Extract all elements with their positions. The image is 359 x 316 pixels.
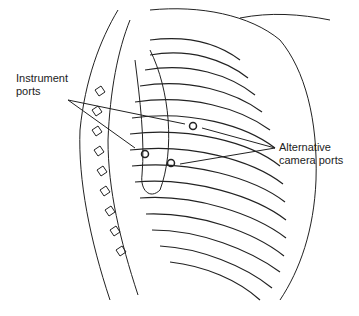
upper-port xyxy=(190,123,197,130)
instrument-ports-line1: Instrument xyxy=(16,72,68,85)
camera-ports-label: Alternative camera ports xyxy=(279,141,343,167)
camera-ports-line2: camera ports xyxy=(279,154,343,167)
instrument-ports-label: Instrument ports xyxy=(16,72,68,98)
camera-ports-line1: Alternative xyxy=(279,141,343,154)
instrument-ports-line2: ports xyxy=(16,85,68,98)
